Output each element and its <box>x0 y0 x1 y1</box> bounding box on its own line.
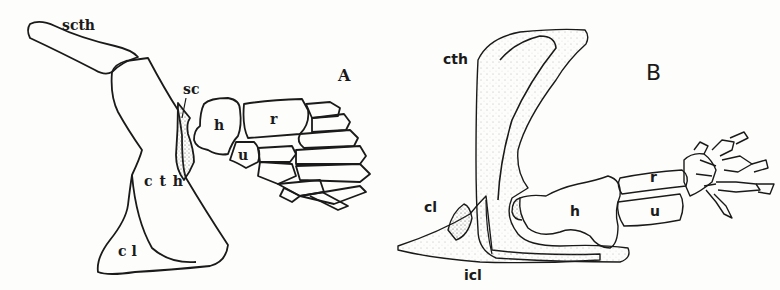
panel-letter-a: A <box>338 68 350 84</box>
label-r-b: r <box>650 170 657 184</box>
label-sc-a: sc <box>183 82 199 96</box>
cleithrum-bone-b <box>476 29 629 262</box>
label-scth-a: scth <box>62 18 95 32</box>
label-cl-b: cl <box>424 200 437 214</box>
panel-letter-b: B <box>646 62 661 84</box>
label-h-a: h <box>214 118 224 132</box>
label-r-a: r <box>270 112 277 126</box>
label-cth-a: c t h <box>144 174 184 188</box>
anatomy-figure: scth sc c t h c l h r u A cth cl icl h r… <box>0 0 780 290</box>
cleithrum-bone <box>98 58 228 274</box>
scapulocoracoid-bone <box>176 103 194 180</box>
figure-drawing <box>0 0 780 290</box>
label-u-a: u <box>238 148 248 162</box>
label-cl-a: c l <box>118 244 137 258</box>
label-h-b: h <box>570 204 580 218</box>
label-u-b: u <box>650 204 660 218</box>
label-cth-b: cth <box>443 52 468 66</box>
panel-a-drawing <box>28 22 370 274</box>
label-icl-b: icl <box>464 268 482 282</box>
